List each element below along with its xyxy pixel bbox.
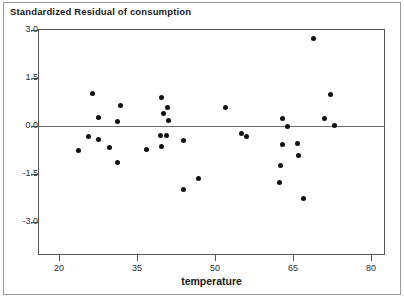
chart-title: Standardized Residual of consumption	[10, 6, 191, 17]
y-tick: -1.5	[0, 174, 38, 175]
y-tick-label: 0.0	[12, 120, 38, 130]
plot-area	[38, 29, 385, 255]
y-tick: -3.0	[0, 222, 38, 223]
y-tick-label: 1.5	[12, 72, 38, 82]
x-tick-label: 35	[122, 263, 152, 273]
y-tick-label: -1.5	[12, 168, 38, 178]
y-tick: 0.0	[0, 126, 38, 127]
zero-reference-line	[38, 126, 385, 127]
x-tick-mark	[59, 255, 60, 261]
y-tick-label: -3.0	[12, 216, 38, 226]
x-tick-mark	[215, 255, 216, 261]
x-tick-mark	[371, 255, 372, 261]
y-tick: 1.5	[0, 78, 38, 79]
x-tick-label: 65	[278, 263, 308, 273]
x-tick-mark	[293, 255, 294, 261]
x-tick-label: 20	[44, 263, 74, 273]
x-tick-mark	[137, 255, 138, 261]
y-tick-label: 3.0	[12, 24, 38, 34]
x-tick-label: 80	[356, 263, 386, 273]
x-tick-label: 50	[200, 263, 230, 273]
x-axis-title: temperature	[38, 275, 385, 287]
y-tick: 3.0	[0, 30, 38, 31]
chart-window: Standardized Residual of consumption 3.0…	[0, 0, 404, 298]
